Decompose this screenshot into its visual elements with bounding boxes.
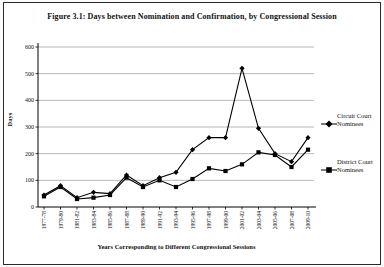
- x-axis-title: Years Corresponding to Different Congres…: [38, 243, 315, 250]
- x-tick-label: 2005-06: [272, 211, 278, 230]
- x-tick-label: 2007-08: [289, 211, 295, 230]
- x-tick-label: 1993-94: [173, 211, 179, 230]
- district-data-point: [190, 177, 194, 181]
- x-tick-label: 2003-04: [256, 211, 262, 230]
- x-tick-label: 1987-88: [124, 211, 130, 230]
- y-axis-title: Days: [6, 117, 13, 127]
- x-tick-label: 1985-86: [107, 211, 113, 230]
- legend-label-district: District Court Nominees: [337, 158, 377, 174]
- x-tick-label: 1983-84: [91, 211, 97, 230]
- y-tick-label: 600: [25, 44, 34, 50]
- x-tick-label: 1979-80: [58, 211, 64, 230]
- y-tick-label: 0: [31, 204, 34, 210]
- x-tick-label: 1981-82: [74, 211, 80, 230]
- district-data-point: [141, 185, 145, 189]
- y-tick-label: 300: [25, 124, 34, 130]
- legend-item-district: District Court Nominees: [321, 158, 381, 178]
- district-data-point: [108, 193, 112, 197]
- x-tick-label: 1977-78: [41, 211, 47, 230]
- district-data-point: [240, 162, 244, 166]
- district-data-point: [157, 178, 161, 182]
- x-tick-label: 1995-96: [190, 211, 196, 230]
- x-tick-label: 1989-90: [140, 211, 146, 230]
- circuit-data-point: [91, 190, 96, 195]
- district-data-point: [42, 194, 46, 198]
- x-tick-label: 1999-00: [223, 211, 229, 230]
- x-tick-label: 2001-02: [239, 211, 245, 230]
- district-data-point: [75, 197, 79, 201]
- district-data-point: [174, 185, 178, 189]
- district-data-point: [273, 153, 277, 157]
- district-data-point: [306, 148, 310, 152]
- district-data-point: [124, 176, 128, 180]
- square-marker-icon: [321, 160, 337, 178]
- circuit-data-point: [223, 135, 228, 140]
- x-tick-label: 1997-98: [206, 211, 212, 230]
- circuit-series-line: [44, 68, 308, 197]
- district-data-point: [91, 196, 95, 200]
- y-tick-label: 400: [25, 97, 34, 103]
- district-data-point: [256, 150, 260, 154]
- y-tick-label: 500: [25, 71, 34, 77]
- chart-legend: Circuit Court Nominees District Court No…: [321, 112, 381, 204]
- y-tick-label: 200: [25, 151, 34, 157]
- district-data-point: [223, 169, 227, 173]
- figure-3-1: Figure 3.1: Days between Nomination and …: [0, 0, 384, 267]
- circuit-data-point: [239, 66, 244, 71]
- x-tick-label: 1991-92: [157, 211, 163, 230]
- diamond-marker-icon: [321, 114, 337, 132]
- district-data-point: [289, 165, 293, 169]
- y-tick-label: 100: [25, 177, 34, 183]
- district-data-point: [207, 166, 211, 170]
- legend-item-circuit: Circuit Court Nominees: [321, 112, 381, 132]
- district-data-point: [58, 185, 62, 189]
- x-tick-label: 2009-10: [305, 211, 311, 230]
- legend-label-circuit: Circuit Court Nominees: [337, 112, 377, 128]
